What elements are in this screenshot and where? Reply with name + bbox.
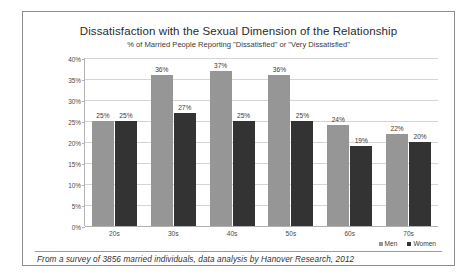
legend-swatch-icon [407,242,411,246]
footer-divider [35,251,442,252]
bar-group: 25%25%20s [85,58,144,226]
bar-women-60s[interactable]: 19% [350,146,372,226]
y-axis-tick-label: 10% [68,182,81,189]
bar-women-30s[interactable]: 27% [174,113,196,226]
bar-group: 37%25%40s [203,58,262,226]
bar-value-label: 25% [237,112,250,119]
y-axis-tick-mark [82,227,85,228]
legend-item-men[interactable]: Men [379,240,398,247]
plot-wrapper: 40%35%30%25%20%15%10%5%0% 25%25%20s36%27… [58,58,438,226]
gridline: 0% [85,226,438,227]
plot-area: 40%35%30%25%20%15%10%5%0% 25%25%20s36%27… [84,58,438,226]
legend-item-women[interactable]: Women [407,240,436,247]
y-axis-tick-label: 35% [68,77,81,84]
bar-value-label: 36% [155,66,168,73]
bar-group: 24%19%60s [320,58,379,226]
bar-value-label: 24% [332,116,345,123]
bar-value-label: 25% [96,112,109,119]
bar-group: 36%27%30s [144,58,203,226]
bar-women-40s[interactable]: 25% [233,121,255,226]
bar-men-70s[interactable]: 22% [386,134,408,226]
bar-value-label: 36% [273,66,286,73]
bar-value-label: 19% [355,137,368,144]
chart-subtitle: % of Married People Reporting "Dissatisf… [23,39,454,50]
bar-men-50s[interactable]: 36% [268,75,290,226]
chart-title: Dissatisfaction with the Sexual Dimensio… [23,24,454,38]
y-axis-tick-label: 0% [72,224,81,231]
bar-group: 22%20%70s [379,58,438,226]
x-axis-tick-label-50s: 50s [286,230,297,237]
bar-men-20s[interactable]: 25% [92,121,114,226]
bar-men-40s[interactable]: 37% [210,71,232,226]
bar-value-label: 25% [119,112,132,119]
bar-value-label: 20% [413,133,426,140]
bar-value-label: 25% [296,112,309,119]
bar-men-60s[interactable]: 24% [327,125,349,226]
legend-swatch-icon [379,242,383,246]
y-axis-tick-label: 30% [68,98,81,105]
y-axis-tick-label: 25% [68,119,81,126]
legend-label: Women [413,240,436,247]
y-axis-tick-label: 5% [72,203,81,210]
bar-men-30s[interactable]: 36% [151,75,173,226]
footer-note: From a survey of 3856 married individual… [37,255,354,264]
x-axis-tick-label-70s: 70s [403,230,414,237]
bar-value-label: 37% [214,62,227,69]
bar-value-label: 27% [178,104,191,111]
chart-card: Dissatisfaction with the Sexual Dimensio… [22,11,455,266]
bar-value-label: 22% [390,125,403,132]
y-axis-tick-label: 15% [68,161,81,168]
title-block: Dissatisfaction with the Sexual Dimensio… [23,24,454,50]
x-axis-tick-label-60s: 60s [344,230,355,237]
y-axis-tick-label: 20% [68,140,81,147]
bar-women-50s[interactable]: 25% [291,121,313,226]
x-axis-tick-label-20s: 20s [109,230,120,237]
chart-legend: MenWomen [379,240,436,247]
x-axis-tick-label-40s: 40s [227,230,238,237]
bar-group: 36%25%50s [262,58,321,226]
bar-women-20s[interactable]: 25% [115,121,137,226]
x-axis-tick-label-30s: 30s [168,230,179,237]
bar-women-70s[interactable]: 20% [409,142,431,226]
bars-layer: 25%25%20s36%27%30s37%25%40s36%25%50s24%1… [85,58,438,226]
y-axis-tick-label: 40% [68,56,81,63]
legend-label: Men [385,240,398,247]
